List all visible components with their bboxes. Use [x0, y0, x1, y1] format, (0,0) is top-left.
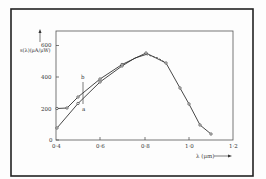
y-axis-label: s(λ)(μA/μW): [20, 47, 51, 54]
x-tick-1.2: 1·2: [229, 143, 238, 149]
y-tick-400: 400: [41, 74, 52, 80]
x-ticks: 0·4 0·6 0·8 1·0 1·2: [52, 137, 238, 149]
data-markers: [56, 52, 212, 135]
series-b-label: b: [81, 74, 85, 80]
x-tick-1.0: 1·0: [185, 143, 194, 149]
x-arrow-head-icon: [228, 155, 232, 158]
series-a-line: [57, 55, 146, 129]
series-a-label: a: [82, 106, 86, 112]
y-tick-600: 600: [41, 42, 52, 48]
x-tick-0.4: 0·4: [52, 143, 61, 149]
x-axis-label: λ (μm): [196, 153, 214, 160]
series-b-line: [57, 53, 211, 134]
figure-border: [11, 9, 253, 176]
plot-frame: [56, 31, 233, 140]
y-tick-200: 200: [41, 106, 52, 112]
y-arrow-head-icon: [39, 29, 42, 33]
x-tick-0.6: 0·6: [96, 143, 105, 149]
chart-figure: s(λ)(μA/μW) 0 200 400 600 0·4 0·6 0·8 1·…: [0, 0, 266, 179]
x-tick-0.8: 0·8: [141, 143, 150, 149]
